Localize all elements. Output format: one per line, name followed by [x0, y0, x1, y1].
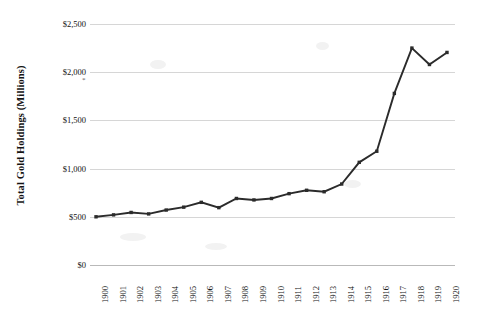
- series-line-total-gold-holdings: [96, 48, 447, 217]
- y-tick-label: $1,500: [38, 115, 86, 125]
- x-tick-label-text: 1912: [311, 286, 321, 303]
- data-point-marker: [112, 213, 115, 216]
- y-tick-label: $0: [38, 260, 86, 270]
- y-axis-title-text: Total Gold Holdings (Millions): [15, 65, 26, 205]
- x-tick-label-text: 1906: [205, 286, 215, 303]
- data-point-marker: [445, 51, 448, 54]
- series-markers: [94, 46, 448, 218]
- data-point-marker: [375, 150, 378, 153]
- data-point-marker: [428, 63, 431, 66]
- x-tick-label-text: 1920: [451, 286, 461, 303]
- data-point-marker: [270, 197, 273, 200]
- x-tick-label-text: 1902: [135, 286, 145, 303]
- data-point-marker: [340, 182, 343, 185]
- data-point-marker: [410, 46, 413, 49]
- x-tick-label-text: 1909: [258, 286, 268, 303]
- data-point-marker: [393, 92, 396, 95]
- y-tick-label: $1,000: [38, 164, 86, 174]
- x-tick-label-text: 1911: [293, 286, 303, 303]
- x-tick-label-text: 1913: [328, 286, 338, 303]
- x-tick-label-text: 1919: [433, 286, 443, 303]
- x-tick-label-text: 1907: [223, 286, 233, 303]
- data-point-marker: [182, 205, 185, 208]
- series-plot: [90, 24, 455, 265]
- x-tick-label-text: 1917: [398, 286, 408, 303]
- data-point-marker: [200, 201, 203, 204]
- data-point-marker: [287, 192, 290, 195]
- data-point-marker: [129, 211, 132, 214]
- axis-annotation-asterisk: *: [82, 77, 86, 84]
- x-tick-label-text: 1900: [100, 286, 110, 303]
- x-tick-label-text: 1904: [170, 286, 180, 303]
- data-point-marker: [252, 198, 255, 201]
- data-point-marker: [305, 189, 308, 192]
- x-tick-label-text: 1905: [188, 286, 198, 303]
- x-axis-line: [90, 265, 455, 266]
- y-tick-label: $2,000: [38, 67, 86, 77]
- x-tick-label-text: 1908: [240, 286, 250, 303]
- x-tick-label-text: 1914: [346, 286, 356, 303]
- data-point-marker: [165, 208, 168, 211]
- x-tick-label-text: 1916: [381, 286, 391, 303]
- y-tick-label: $2,500: [38, 19, 86, 29]
- x-axis-tick-labels: 1900190119021903190419051906190719081909…: [90, 267, 455, 311]
- plot-area: [90, 24, 455, 265]
- data-point-marker: [322, 190, 325, 193]
- y-axis-tick-labels: $2,500 $2,000 $1,500 $1,000 $500 $0: [34, 24, 86, 265]
- x-tick-label-text: 1903: [153, 286, 163, 303]
- data-point-marker: [147, 212, 150, 215]
- x-tick-label-text: 1915: [363, 286, 373, 303]
- data-point-marker: [94, 215, 97, 218]
- x-tick-label-text: 1910: [276, 286, 286, 303]
- x-tick-label-text: 1918: [416, 286, 426, 303]
- y-tick-label: $500: [38, 212, 86, 222]
- data-point-marker: [358, 161, 361, 164]
- data-point-marker: [217, 206, 220, 209]
- x-tick-label-text: 1901: [118, 286, 128, 303]
- data-point-marker: [235, 197, 238, 200]
- chart-figure: Total Gold Holdings (Millions) $2,500 $2…: [0, 0, 479, 311]
